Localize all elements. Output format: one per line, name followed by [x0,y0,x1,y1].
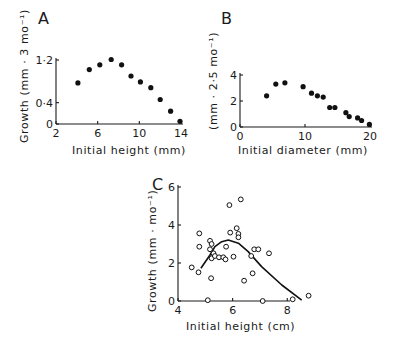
x-tick-label: 2 [53,127,60,140]
x-tick-label: 20 [363,130,377,143]
y-tick-label: 2 [168,257,175,270]
data-point [209,276,214,281]
data-points-c [189,197,311,303]
x-tick-label: 10 [298,130,312,143]
data-point [242,278,247,283]
data-points-b [264,80,372,127]
data-point [227,203,232,208]
data-point [290,297,295,302]
y-tick-label: 0 [168,295,175,308]
x-tick-label: 8 [284,304,291,317]
data-point [282,80,287,85]
data-point [231,254,236,259]
data-points-a [75,57,182,124]
data-point [97,62,102,67]
panel-label-b: B [221,9,232,28]
y-tick-label: 0·4 [36,97,54,110]
data-point [321,95,326,100]
x-axis-label-b: Initial diameter (mm) [238,144,368,157]
data-point [260,299,265,304]
y-tick-label: 6 [168,181,175,194]
chart-panel-a: A 26101400·41·2 Initial height (mm) Grow… [18,9,188,157]
data-point [197,231,202,236]
x-tick-label: 0 [237,130,244,143]
axes-c: 4680246 [168,181,291,317]
data-point [250,271,255,276]
data-point [301,84,306,89]
data-point [273,82,278,87]
data-point [306,293,311,298]
x-tick-label: 4 [175,304,182,317]
data-point [209,242,214,247]
y-tick-label: 4 [230,69,237,82]
data-point [264,93,269,98]
x-tick-label: 10 [132,127,146,140]
y-axis-label-b: (mm · 2·5 mo⁻¹) [207,32,220,130]
data-point [205,298,210,303]
y-axis-label-c: Growth (mm · mo⁻¹) [146,190,159,312]
data-point [224,244,229,249]
x-tick-label: 6 [229,304,236,317]
data-point [168,109,173,114]
data-point [119,62,124,67]
data-point [256,247,261,252]
y-axis-label-a: Growth (mm · 3 mo⁻¹) [18,9,31,143]
x-tick-label: 14 [174,127,188,140]
axes-a: 26101400·41·2 [36,54,189,140]
panel-label-a: A [38,9,49,28]
chart-panel-c: C 4680246 Initial height (cm) Growth (mm… [146,175,311,333]
x-axis-label-c: Initial height (cm) [186,320,295,333]
data-point [236,235,241,240]
axes-b: 01020024 [230,69,377,143]
data-point [138,79,143,84]
figure-canvas: A 26101400·41·2 Initial height (mm) Grow… [0,0,396,347]
data-point [158,97,163,102]
data-point [249,254,254,259]
fit-curve-line [201,240,302,300]
data-point [332,105,337,110]
x-axis-label-a: Initial height (mm) [72,144,186,157]
data-point [367,122,372,127]
data-point [197,244,202,249]
data-point [189,265,194,270]
chart-panel-b: B 01020024 Initial diameter (mm) (mm · 2… [207,9,377,157]
data-point [228,230,233,235]
data-point [327,105,332,110]
data-point [148,85,153,90]
data-point [223,257,228,262]
data-point [109,57,114,62]
y-tick-label: 4 [168,219,175,232]
y-tick-label: 0 [230,121,237,134]
data-point [309,91,314,96]
fit-curve-c [201,240,302,300]
x-tick-label: 6 [94,127,101,140]
data-point [359,118,364,123]
data-point [87,67,92,72]
data-point [267,251,272,256]
data-point [75,80,80,85]
data-point [347,114,352,119]
y-tick-label: 2 [230,95,237,108]
data-point [196,270,201,275]
data-point [128,73,133,78]
data-point [315,93,320,98]
y-tick-label: 0 [46,118,53,131]
data-point [238,197,243,202]
y-tick-label: 1·2 [36,54,54,67]
data-point [208,247,213,252]
data-point [177,119,182,124]
data-point [234,226,239,231]
